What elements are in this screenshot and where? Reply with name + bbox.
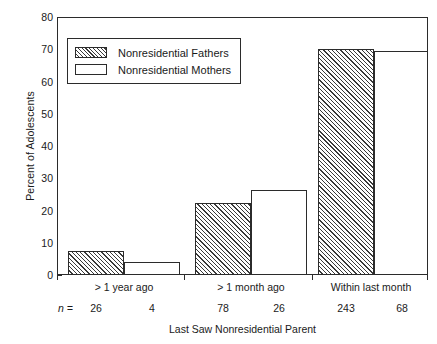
y-tick-label-10: 10 [27, 238, 53, 249]
n-value-mothers-2: 68 [382, 302, 422, 314]
n-value-mothers-0: 4 [132, 302, 172, 314]
n-value-fathers-2: 243 [326, 302, 366, 314]
x-category-label-1: > 1 month ago [191, 281, 311, 293]
y-axis-tick-labels: 80 70 60 50 40 30 20 10 0 [20, 17, 53, 275]
y-tick-label-60: 60 [27, 76, 53, 87]
bar-fathers-within-last-month [318, 49, 374, 275]
x-tick-mark-left [57, 275, 58, 280]
y-tick-label-0: 0 [27, 270, 53, 281]
x-tick-mark-1 [184, 275, 185, 280]
y-tick-label-20: 20 [27, 205, 53, 216]
bar-fathers-gt-1-month [195, 203, 251, 275]
legend-label-mothers: Nonresidential Mothers [118, 64, 231, 76]
y-tick-label-40: 40 [27, 141, 53, 152]
bar-fathers-gt-1-year [68, 251, 124, 276]
n-value-fathers-0: 26 [76, 302, 116, 314]
y-tick-label-70: 70 [27, 44, 53, 55]
x-tick-mark-right [427, 275, 428, 280]
y-tick-label-50: 50 [27, 109, 53, 120]
y-tick-label-30: 30 [27, 173, 53, 184]
legend-swatch-hatched-icon [75, 47, 107, 58]
legend-entry-fathers: Nonresidential Fathers [75, 44, 231, 61]
bar-mothers-gt-1-month [251, 190, 307, 276]
x-category-label-0: > 1 year ago [64, 281, 184, 293]
n-row-prefix: n = [58, 302, 73, 314]
bar-mothers-within-last-month [374, 51, 428, 275]
x-tick-mark-2 [312, 275, 313, 280]
legend-swatch-white-icon [75, 64, 107, 75]
legend-entry-mothers: Nonresidential Mothers [75, 61, 231, 78]
n-value-fathers-1: 78 [203, 302, 243, 314]
y-tick-label-80: 80 [27, 12, 53, 23]
x-axis-title: Last Saw Nonresidential Parent [57, 323, 428, 335]
legend-label-fathers: Nonresidential Fathers [118, 47, 229, 59]
chart-legend: Nonresidential Fathers Nonresidential Mo… [67, 38, 241, 84]
n-value-mothers-1: 26 [259, 302, 299, 314]
bar-mothers-gt-1-year [124, 262, 180, 276]
bar-chart-figure: Percent of Adolescents 80 70 60 50 40 30… [0, 0, 437, 344]
x-category-label-2: Within last month [313, 281, 429, 293]
